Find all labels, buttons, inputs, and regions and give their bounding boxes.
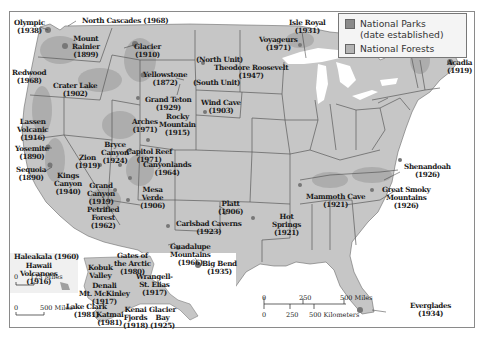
- label-zion: Zion(1919): [75, 154, 100, 170]
- hawaii-scale-zero: 0: [14, 273, 18, 281]
- label-mount-rainier: MountRainier(1899): [72, 35, 100, 59]
- legend-label-sub: (date established): [360, 29, 444, 40]
- label-kobuk-valley: KobukValley: [88, 264, 113, 280]
- label-mesa-verde: MesaVerde(1906): [140, 186, 165, 210]
- label-crater-lake: Crater Lake(1902): [53, 82, 97, 98]
- label-hot-springs: HotSprings(1921): [272, 213, 301, 237]
- label-lassen-volcanic: LassenVolcanic(1916): [17, 118, 48, 142]
- label-everglades: Everglades(1934): [410, 302, 451, 318]
- label-isle-royal: Isle Royal(1931): [289, 19, 326, 35]
- label-shenandoah: Shenandoah(1926): [404, 163, 451, 179]
- label-south-unit: (South Unit): [193, 79, 240, 87]
- label-arches: Arches(1971): [132, 118, 158, 134]
- label-sequoia: Sequoia(1890): [16, 166, 46, 182]
- label-katmai: Katmai(1981): [96, 311, 123, 327]
- scale-km-500: 500 Kilometers: [309, 311, 359, 319]
- label-grand-teton: Grand Teton(1929): [145, 96, 191, 112]
- alaska-scale-bar: [16, 312, 44, 315]
- label-platt: Platt(1906): [218, 200, 243, 216]
- label-rocky-mountain: RockyMountain(1915): [159, 113, 196, 137]
- legend-item-national-forests: National Forests: [345, 43, 434, 54]
- label-haleakala: Haleakala (1960): [14, 253, 79, 261]
- label-acadia: Acadia(1919): [447, 59, 472, 75]
- label-olympic: Olympic(1938): [14, 19, 45, 35]
- scale-miles-500: 500 Miles: [340, 294, 372, 302]
- label-petrified-forest: PetrifiedForest(1962): [87, 206, 119, 230]
- hawaii-scale-max: 125 Miles: [30, 273, 62, 281]
- label-yosemite: Yosemite(1890): [15, 145, 49, 161]
- label-glacier-bay: GlacierBay(1925): [149, 306, 176, 330]
- legend-item-national-parks: National Parks: [345, 18, 426, 29]
- legend-item-national-parks-sub: (date established): [360, 29, 444, 40]
- scale-miles-0: 0: [262, 294, 266, 302]
- label-kenai-fjords: KenaiFjords(1918): [123, 306, 148, 330]
- label-north-cascades: North Cascades (1968): [82, 17, 168, 25]
- label-yellowstone: Yellowstone(1872): [143, 71, 187, 87]
- label-redwood: Redwood(1968): [12, 69, 46, 85]
- label-carlsbad-caverns: Carlsbad Caverns(1923): [176, 220, 242, 236]
- label-canyonlands: Canyonlands(1964): [143, 161, 191, 177]
- legend-label: National Forests: [360, 43, 434, 54]
- label-voyageurs: Voyageurs(1971): [259, 36, 298, 52]
- alaska-scale-zero: 0: [14, 304, 18, 312]
- label-wind-cave: Wind Cave(1903): [201, 99, 241, 115]
- label-kings-canyon: KingsCanyon(1940): [54, 172, 82, 196]
- label-great-smoky-mountains: Great SmokyMountains(1926): [382, 186, 430, 210]
- alaska-scale-max: 500 Miles: [40, 304, 72, 312]
- scale-km-0: 0: [262, 311, 266, 319]
- label-big-bend: Big Bend(1935): [202, 260, 237, 276]
- label-bryce-canyon: BryceCanyon(1924): [101, 141, 129, 165]
- map-legend: National Parks (date established) Nation…: [338, 13, 467, 58]
- label-mammoth-cave: Mammoth Cave(1921): [306, 193, 365, 209]
- national-forests-swatch: [345, 44, 355, 54]
- label-glacier: Glacier(1910): [134, 43, 161, 59]
- label-wrangell-st-elias: Wrangell-St. Elias(1917): [136, 273, 173, 297]
- national-parks-swatch: [345, 19, 355, 29]
- scale-miles-250: 250: [299, 294, 311, 302]
- label-grand-canyon: GrandCanyon(1919): [87, 182, 115, 206]
- scale-km-250: 250: [286, 311, 298, 319]
- legend-label: National Parks: [360, 18, 426, 29]
